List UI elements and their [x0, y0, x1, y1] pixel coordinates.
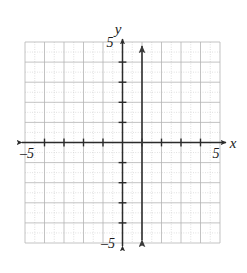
- coordinate-plane-svg: y x 5 –5 –5 5: [0, 0, 247, 273]
- x-axis-max-tick-label: 5: [213, 146, 220, 161]
- x-axis-min-tick-label: –5: [19, 146, 34, 161]
- y-axis-max-tick-label: 5: [107, 35, 114, 50]
- coordinate-plane-figure: y x 5 –5 –5 5: [0, 0, 247, 273]
- y-axis-min-tick-label: –5: [100, 236, 115, 251]
- x-axis-label: x: [229, 135, 237, 151]
- y-axis-label: y: [113, 21, 122, 37]
